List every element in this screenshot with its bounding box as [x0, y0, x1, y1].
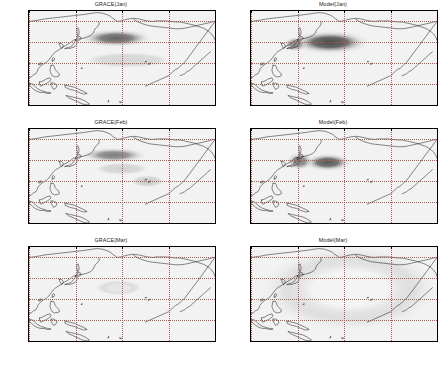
figure-grace-model-comparison: GRACE(Jan)60N40N20NEq20S100E140E180E140W… — [0, 0, 443, 365]
panel-title-model-feb: Model(Feb) — [224, 119, 442, 125]
panel-title-grace-feb: GRACE(Feb) — [2, 119, 220, 125]
x-tick-mark — [215, 247, 216, 250]
panel-title-model-mar: Model(Mar) — [224, 237, 442, 243]
panel-grace-feb: GRACE(Feb)60N40N20NEq20S100E140E180E140W… — [2, 119, 220, 237]
plot-area-model-jan: 60N40N20NEq20S100E140E180E140W100W — [250, 10, 438, 106]
panel-grace-mar: GRACE(Mar)60N40N20NEq20S100E140E180E140W… — [2, 237, 220, 355]
x-tick-mark — [215, 129, 216, 132]
map-canvas-model-mar — [251, 247, 437, 341]
panel-model-feb: Model(Feb)60N40N20NEq20S100E140E180E140W… — [224, 119, 442, 237]
map-canvas-grace-feb — [29, 129, 215, 223]
panel-grace-jan: GRACE(Jan)60N40N20NEq20S100E140E180E140W… — [2, 1, 220, 119]
plot-area-grace-feb: 60N40N20NEq20S100E140E180E140W100W — [28, 128, 216, 224]
plot-area-grace-mar: 60N40N20NEq20S100E140E180E140W100W — [28, 246, 216, 342]
panel-title-grace-jan: GRACE(Jan) — [2, 1, 220, 7]
x-tick-mark — [437, 247, 438, 250]
plot-area-grace-jan: 60N40N20NEq20S100E140E180E140W100W — [28, 10, 216, 106]
x-tick-mark — [437, 11, 438, 14]
plot-area-model-feb: 60N40N20NEq20S100E140E180E140W100W — [250, 128, 438, 224]
panel-title-grace-mar: GRACE(Mar) — [2, 237, 220, 243]
panel-title-model-jan: Model(Jan) — [224, 1, 442, 7]
map-canvas-grace-mar — [29, 247, 215, 341]
panel-model-mar: Model(Mar)60N40N20NEq20S100E140E180E140W… — [224, 237, 442, 355]
map-canvas-grace-jan — [29, 11, 215, 105]
map-canvas-model-feb — [251, 129, 437, 223]
panel-model-jan: Model(Jan)60N40N20NEq20S100E140E180E140W… — [224, 1, 442, 119]
x-tick-mark — [215, 11, 216, 14]
map-canvas-model-jan — [251, 11, 437, 105]
plot-area-model-mar: 60N40N20NEq20S100E140E180E140W100W — [250, 246, 438, 342]
x-tick-mark — [437, 129, 438, 132]
